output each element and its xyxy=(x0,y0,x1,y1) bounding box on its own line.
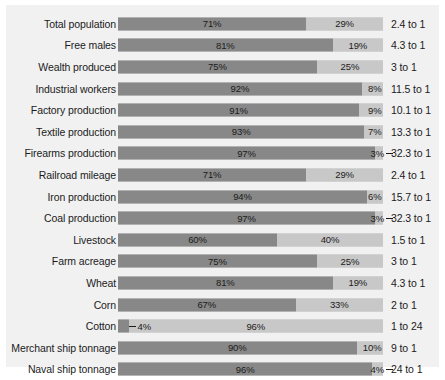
chart-row: Free males81%19%4.3 to 1 xyxy=(6,35,439,57)
row-ratio-label: 24 to 1 xyxy=(391,363,422,375)
stacked-bar-track: 67%33% xyxy=(118,298,383,311)
bar-segment-north xyxy=(118,320,129,333)
stacked-bar-track: 96%4% xyxy=(118,363,383,376)
percent-label-north: 92% xyxy=(118,83,362,94)
percent-label-north: 71% xyxy=(118,169,306,180)
row-ratio-label: 32.3 to 1 xyxy=(391,212,431,224)
row-ratio-label: 4.3 to 1 xyxy=(391,39,425,51)
stacked-bar-track: 90%10% xyxy=(118,341,383,354)
stacked-bar-track: 4%96% xyxy=(118,320,383,333)
chart-row: Textile production93%7%13.3 to 1 xyxy=(6,121,439,143)
chart-row: Coal production97%3%32.3 to 1 xyxy=(6,207,439,229)
percent-label-south: 33% xyxy=(296,299,383,310)
percent-label-north: 81% xyxy=(118,277,333,288)
chart-row: Firearms production97%3%32.3 to 1 xyxy=(6,143,439,165)
row-ratio-label: 11.5 to 1 xyxy=(391,83,430,95)
row-category-label: Wealth produced xyxy=(6,61,116,73)
percent-label-south: 19% xyxy=(333,277,383,288)
chart-row: Industrial workers92%8%11.5 to 1 xyxy=(6,78,439,100)
stacked-bar-track: 71%29% xyxy=(118,168,383,181)
row-category-label: Free males xyxy=(6,39,116,51)
chart-row: Livestock60%40%1.5 to 1 xyxy=(6,229,439,251)
row-ratio-label: 2 to 1 xyxy=(391,299,417,311)
stacked-bar-track: 97%3% xyxy=(118,147,383,160)
percent-label-north: 94% xyxy=(118,191,367,202)
percent-label-south: 40% xyxy=(277,234,383,245)
percent-label-north: 90% xyxy=(118,342,357,353)
row-category-label: Corn xyxy=(6,299,116,311)
row-category-label: Factory production xyxy=(6,104,116,116)
percent-label-north: 81% xyxy=(118,40,333,51)
stacked-bar-track: 75%25% xyxy=(118,60,383,73)
row-ratio-label: 1 to 24 xyxy=(391,320,422,332)
chart-row: Total population71%29%2.4 to 1 xyxy=(6,13,439,35)
row-ratio-label: 10.1 to 1 xyxy=(391,104,431,116)
chart-row: Railroad mileage71%29%2.4 to 1 xyxy=(6,164,439,186)
row-ratio-label: 15.7 to 1 xyxy=(391,191,431,203)
chart-row: Corn67%33%2 to 1 xyxy=(6,294,439,316)
percent-label-south: 8% xyxy=(368,83,382,94)
stacked-bar-track: 97%3% xyxy=(118,212,383,225)
row-category-label: Total population xyxy=(6,18,116,30)
chart-row: Iron production94%6%15.7 to 1 xyxy=(6,186,439,208)
row-ratio-label: 2.4 to 1 xyxy=(391,18,425,30)
chart-row: Merchant ship tonnage90%10%9 to 1 xyxy=(6,337,439,359)
percent-label-south: 9% xyxy=(368,105,382,116)
row-ratio-label: 32.3 to 1 xyxy=(391,147,431,159)
row-ratio-label: 9 to 1 xyxy=(391,342,417,354)
percent-label-south: 29% xyxy=(306,169,383,180)
row-category-label: Wheat xyxy=(6,277,116,289)
chart-row: Cotton4%96%1 to 24 xyxy=(6,315,439,337)
row-category-label: Industrial workers xyxy=(6,83,116,95)
percent-label-south: 3% xyxy=(370,148,384,159)
row-category-label: Cotton xyxy=(6,320,116,332)
row-ratio-label: 4.3 to 1 xyxy=(391,277,425,289)
percent-label-south: 25% xyxy=(317,61,383,72)
chart-row: Wheat81%19%4.3 to 1 xyxy=(6,272,439,294)
row-category-label: Naval ship tonnage xyxy=(6,363,116,375)
percent-label-south: 25% xyxy=(317,256,383,267)
stacked-bar-track: 60%40% xyxy=(118,233,383,246)
row-category-label: Textile production xyxy=(6,126,116,138)
percent-label-south: 4% xyxy=(370,364,384,375)
stacked-bar-track: 81%19% xyxy=(118,276,383,289)
stacked-bar-track: 81%19% xyxy=(118,39,383,52)
row-category-label: Livestock xyxy=(6,234,116,246)
row-ratio-label: 3 to 1 xyxy=(391,255,417,267)
row-ratio-label: 1.5 to 1 xyxy=(391,234,425,246)
row-ratio-label: 13.3 to 1 xyxy=(391,126,431,138)
chart-row: Factory production91%9%10.1 to 1 xyxy=(6,99,439,121)
stacked-bar-track: 75%25% xyxy=(118,255,383,268)
percent-label-north: 60% xyxy=(118,234,277,245)
chart-panel: Total population71%29%2.4 to 1Free males… xyxy=(6,5,439,367)
percent-label-south: 3% xyxy=(370,213,384,224)
chart-row: Naval ship tonnage96%4%24 to 1 xyxy=(6,359,439,380)
percent-label-north: 93% xyxy=(118,126,364,137)
stacked-bar-track: 93%7% xyxy=(118,125,383,138)
percent-label-south: 29% xyxy=(306,18,383,29)
stacked-bar-track: 91%9% xyxy=(118,104,383,117)
percent-label-south: 7% xyxy=(368,126,382,137)
percent-label-north: 75% xyxy=(118,61,317,72)
row-category-label: Firearms production xyxy=(6,147,116,159)
row-ratio-label: 2.4 to 1 xyxy=(391,169,425,181)
row-category-label: Iron production xyxy=(6,191,116,203)
row-category-label: Merchant ship tonnage xyxy=(6,342,116,354)
row-category-label: Farm acreage xyxy=(6,255,116,267)
percent-label-north: 97% xyxy=(118,213,375,224)
chart-row: Wealth produced75%25%3 to 1 xyxy=(6,56,439,78)
percent-label-north: 71% xyxy=(118,18,306,29)
percent-label-north: 91% xyxy=(118,105,359,116)
percent-label-south: 19% xyxy=(333,40,383,51)
percent-label-south: 6% xyxy=(368,191,382,202)
percent-label-north: 67% xyxy=(118,299,296,310)
chart-row: Farm acreage75%25%3 to 1 xyxy=(6,251,439,273)
percent-label-south: 10% xyxy=(363,342,382,353)
stacked-bar-track: 92%8% xyxy=(118,82,383,95)
percent-label-north: 75% xyxy=(118,256,317,267)
percent-label-north: 97% xyxy=(118,148,375,159)
stacked-bar-track: 71%29% xyxy=(118,17,383,30)
row-ratio-label: 3 to 1 xyxy=(391,61,417,73)
row-category-label: Railroad mileage xyxy=(6,169,116,181)
percent-label-north: 96% xyxy=(118,364,372,375)
